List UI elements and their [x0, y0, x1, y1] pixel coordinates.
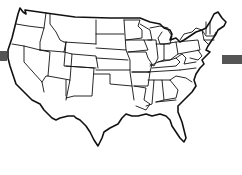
border-nm: [66, 66, 94, 98]
border-ok-tx: [94, 74, 132, 86]
border-oh: [164, 42, 178, 60]
border-id-west: [40, 13, 46, 50]
border-mn: [124, 20, 142, 40]
border-ky: [150, 58, 180, 68]
border-la: [134, 86, 150, 110]
border-co: [72, 54, 98, 68]
border-tn: [148, 70, 180, 72]
border-pa: [176, 40, 200, 54]
border-mi-upper: [150, 26, 168, 28]
border-new-england: [202, 30, 216, 36]
border-ga: [162, 80, 178, 100]
border-ne-ks: [96, 58, 128, 60]
border-mt-south: [64, 42, 96, 44]
border-id-mt: [50, 14, 64, 42]
border-id-ut-wy: [40, 42, 66, 52]
border-or-ca-nv: [12, 44, 40, 50]
border-sd-ne: [96, 48, 126, 50]
border-nc-va: [180, 68, 196, 70]
border-nv-ut: [40, 50, 50, 76]
border-wa-or: [16, 24, 44, 28]
border-ar: [132, 72, 150, 86]
border-mo: [128, 52, 152, 72]
border-ca-nv: [24, 46, 44, 92]
border-mi-lower: [158, 30, 172, 44]
border-ia: [126, 40, 148, 52]
us-outline: [8, 8, 226, 146]
us-states-map: [0, 0, 242, 175]
border-nc-sc: [170, 76, 192, 82]
border-al: [154, 80, 164, 102]
